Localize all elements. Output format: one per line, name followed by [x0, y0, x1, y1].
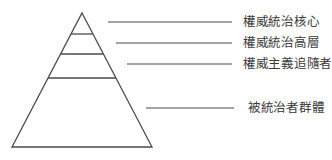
level-label-followers: 權威主義追隨者 — [243, 57, 332, 71]
level-label-upper: 權威統治高層 — [243, 36, 319, 50]
pyramid-outline — [12, 13, 152, 147]
level-label-core: 權威統治核心 — [243, 15, 319, 29]
level-label-governed: 被統治者群體 — [248, 101, 324, 115]
